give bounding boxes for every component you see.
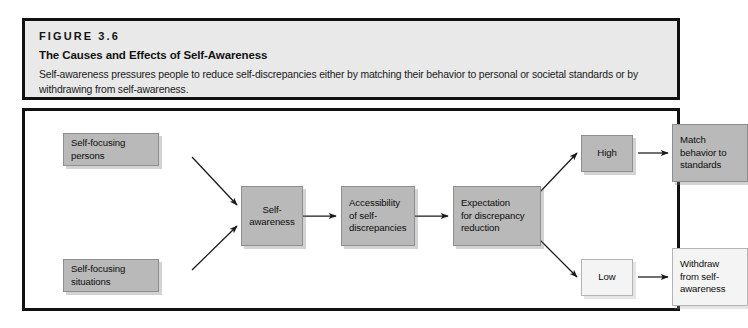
arrow-persons-to-self-awareness <box>192 157 237 205</box>
arrow-situations-to-self-awareness <box>192 226 237 270</box>
node-withdraw-from-self-awareness[interactable]: Withdraw from self- awareness <box>672 248 748 306</box>
node-label: Accessibility of self- discrepancies <box>349 197 406 234</box>
figure-header-panel: FIGURE 3.6 The Causes and Effects of Sel… <box>22 18 680 100</box>
node-label: High <box>597 147 616 159</box>
figure-caption: Self-awareness pressures people to reduc… <box>39 67 667 97</box>
figure-diagram-panel: Self-focusing persons Self-focusing situ… <box>22 108 680 311</box>
figure-number: FIGURE 3.6 <box>39 30 120 42</box>
arrow-expectation-to-high <box>539 153 577 193</box>
node-label: Expectation for discrepancy reduction <box>461 197 525 234</box>
arrow-expectation-to-low <box>539 239 577 277</box>
node-self-focusing-situations[interactable]: Self-focusing situations <box>63 259 159 292</box>
node-self-awareness[interactable]: Self- awareness <box>241 186 303 246</box>
node-label: Self-focusing situations <box>71 263 125 288</box>
node-label: Low <box>598 271 615 283</box>
node-accessibility-of-self-discrepancies[interactable]: Accessibility of self- discrepancies <box>341 186 415 246</box>
node-low[interactable]: Low <box>581 259 633 296</box>
node-label: Self-focusing persons <box>71 137 125 162</box>
node-self-focusing-persons[interactable]: Self-focusing persons <box>63 133 159 166</box>
node-high[interactable]: High <box>581 135 633 172</box>
node-label: Self- awareness <box>249 204 295 229</box>
node-label: Match behavior to standards <box>680 134 726 171</box>
node-expectation-for-discrepancy-reduction[interactable]: Expectation for discrepancy reduction <box>453 186 541 246</box>
node-label: Withdraw from self- awareness <box>680 258 726 295</box>
page-title: The Causes and Effects of Self-Awareness <box>39 49 267 61</box>
flowchart-canvas: Self-focusing persons Self-focusing situ… <box>25 111 677 308</box>
node-match-behavior-to-standards[interactable]: Match behavior to standards <box>672 124 748 182</box>
